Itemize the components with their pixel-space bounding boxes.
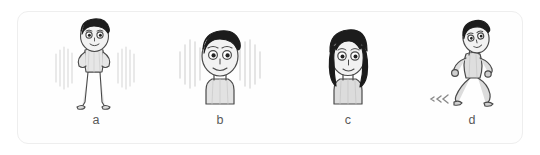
character-running [452,18,494,106]
character-head-bust [202,31,240,104]
panel-b-label: b [146,112,294,128]
motion-lines-right [118,47,134,89]
figure-card: a [17,11,523,144]
motion-lines-left [180,40,200,88]
character-head-long-hair [329,30,367,104]
figure-panel-b: b [146,12,294,145]
panel-d-label: d [398,112,540,128]
motion-lines-left [56,47,72,89]
panel-b-illustration [146,12,294,116]
figure-panel-d: d [398,12,540,145]
panel-d-illustration [398,12,540,116]
figure-container: a [0,0,540,155]
motion-lines-right [240,40,260,88]
speed-marks [431,95,448,103]
character-standing [77,19,110,109]
